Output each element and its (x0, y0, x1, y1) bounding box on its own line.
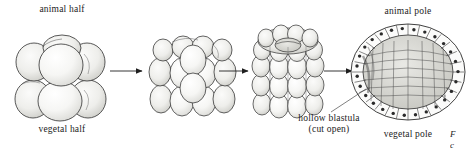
stage-late-morula (252, 25, 324, 118)
nucleus (449, 50, 452, 53)
nucleus (381, 108, 384, 111)
figure-caption-fragment: F c (450, 129, 472, 151)
nucleus (456, 70, 459, 73)
caption-fragment-line-1: F (450, 129, 472, 140)
morula-cell (180, 73, 206, 103)
morula-cell (305, 93, 323, 115)
crown-cell (302, 29, 318, 47)
label-vegetal-pole: vegetal pole (384, 129, 433, 140)
morula-cell (150, 85, 172, 113)
crown-cell (258, 29, 274, 47)
nucleus (356, 75, 359, 78)
stage-hollow-blastula (351, 24, 465, 120)
nucleus (450, 90, 453, 93)
morula-cell (253, 93, 271, 115)
nucleus (401, 27, 404, 30)
nucleus (390, 29, 393, 32)
label-vegetal-half: vegetal half (39, 124, 86, 135)
morula-cell (153, 39, 173, 61)
nucleus (454, 60, 457, 63)
nucleus (372, 102, 375, 105)
nucleus (412, 28, 415, 31)
label-animal-pole: animal pole (385, 6, 432, 17)
stage-early-morula (149, 36, 236, 116)
morula-cell (149, 58, 171, 86)
nucleus (355, 64, 358, 67)
stage-eight-cell-embryo (15, 35, 106, 121)
caption-fragment-line-2: c (450, 140, 472, 151)
nucleus (454, 80, 457, 83)
nucleus (359, 85, 362, 88)
label-hollow-blastula: hollow blastula (cut open) (298, 113, 360, 135)
blastomere (38, 81, 82, 121)
nucleus (363, 45, 366, 48)
morula-cell (180, 45, 206, 75)
nucleus (425, 110, 428, 113)
nucleus (414, 113, 417, 116)
nucleus (433, 35, 436, 38)
morula-cell (213, 85, 235, 113)
embryo-development-figure: animal half vegetal half animal pole veg… (0, 0, 472, 157)
nucleus (403, 114, 406, 117)
nucleus (392, 112, 395, 115)
nucleus (371, 38, 374, 41)
leader-line-hollow-blastula (331, 89, 366, 112)
nucleus (442, 42, 445, 45)
nucleus (423, 30, 426, 33)
label-animal-half: animal half (39, 4, 84, 15)
blastomere (39, 44, 83, 86)
nucleus (358, 54, 361, 57)
nucleus (380, 32, 383, 35)
nucleus (364, 94, 367, 97)
morula-cell (214, 58, 236, 86)
morula-cell (212, 39, 232, 61)
